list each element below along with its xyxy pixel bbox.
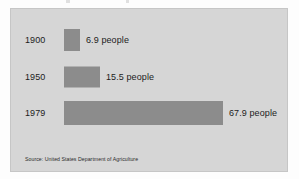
value-label-1979: 67.9 people bbox=[229, 108, 277, 118]
bar-row: 1900 6.9 people bbox=[11, 27, 287, 53]
bar-1900 bbox=[64, 29, 80, 51]
value-label-1950: 15.5 people bbox=[106, 72, 154, 82]
value-label-1900: 6.9 people bbox=[86, 35, 129, 45]
cropped-title-artifact bbox=[66, 0, 70, 3]
plot-area: 1900 6.9 people 1950 15.5 people 1979 67… bbox=[11, 9, 287, 171]
bar-row: 1979 67.9 people bbox=[11, 100, 287, 126]
chart-panel: 1900 6.9 people 1950 15.5 people 1979 67… bbox=[10, 8, 288, 172]
bar-1950 bbox=[64, 67, 100, 88]
bar-1979 bbox=[64, 101, 223, 125]
category-label-1950: 1950 bbox=[25, 72, 65, 82]
chart-figure: 1900 6.9 people 1950 15.5 people 1979 67… bbox=[0, 0, 299, 179]
source-note: Source: United States Department of Agri… bbox=[25, 156, 138, 162]
category-label-1979: 1979 bbox=[25, 108, 65, 118]
cropped-title-artifact bbox=[126, 0, 129, 3]
category-label-1900: 1900 bbox=[25, 35, 65, 45]
bar-row: 1950 15.5 people bbox=[11, 64, 287, 90]
